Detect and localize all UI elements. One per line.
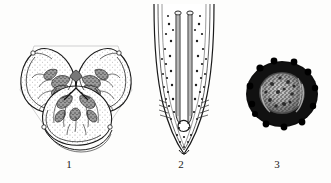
- figure-2-caption: 2: [166, 158, 196, 170]
- figure-3-image: [244, 56, 320, 134]
- figure-3-caption: 3: [262, 158, 292, 170]
- figure-plate: 1 2 3: [0, 0, 331, 183]
- figure-1-caption: 1: [54, 158, 84, 170]
- figure-1-image: [14, 24, 138, 154]
- figure-2-image: [146, 4, 222, 156]
